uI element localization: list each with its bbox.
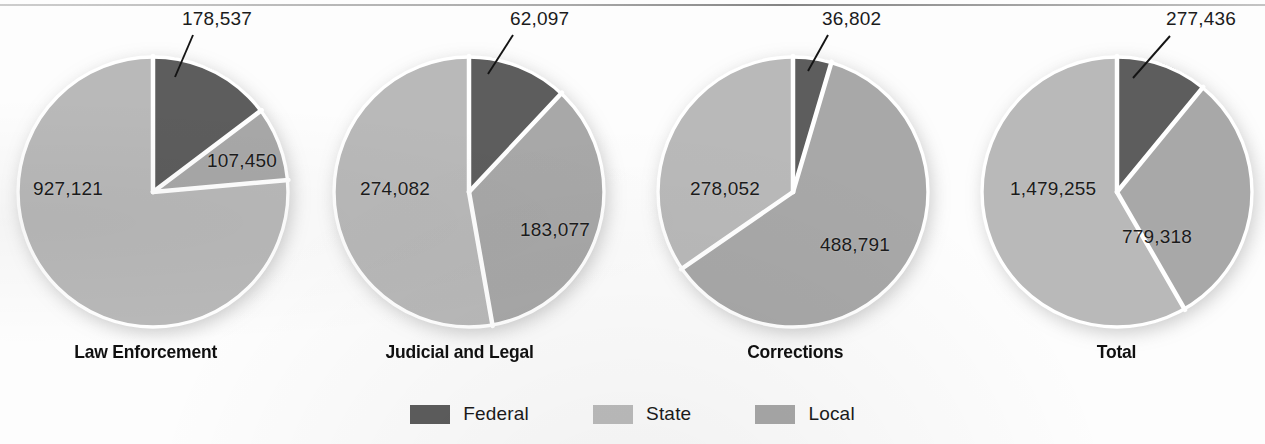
pie-caption-3: Corrections [747, 341, 843, 363]
legend-label: Federal [463, 403, 529, 425]
legend-label: Local [808, 403, 854, 425]
value-label-federal-1: 178,537 [182, 8, 252, 30]
value-label-federal-2: 62,097 [510, 8, 569, 30]
value-label-state-4: 1,479,255 [1010, 178, 1096, 200]
pie-caption-2: Judicial and Legal [385, 341, 533, 363]
value-label-state-1: 927,121 [33, 178, 103, 200]
value-label-local-1: 107,450 [207, 150, 277, 172]
pie-chart-figure: 178,537107,450927,121Law Enforcement62,0… [0, 0, 1265, 444]
pie-caption-1: Law Enforcement [74, 341, 217, 363]
legend-swatch-federal [410, 405, 450, 424]
legend-item-state[interactable]: State [593, 403, 691, 425]
value-label-federal-3: 36,802 [822, 8, 881, 30]
label-leader-line-4 [1129, 32, 1174, 82]
label-leader-line-3 [804, 31, 832, 75]
label-leader-line-2 [484, 31, 517, 78]
value-label-local-4: 779,318 [1122, 226, 1192, 248]
top-divider-rule [0, 4, 1265, 6]
legend-label: State [646, 403, 691, 425]
legend-swatch-local [755, 405, 795, 424]
label-leader-line-1 [171, 31, 197, 81]
value-label-state-2: 274,082 [360, 178, 430, 200]
value-label-state-3: 278,052 [690, 178, 760, 200]
legend-item-federal[interactable]: Federal [410, 403, 529, 425]
pie-caption-4: Total [1097, 341, 1137, 363]
legend-item-local[interactable]: Local [755, 403, 854, 425]
value-label-local-3: 488,791 [820, 234, 890, 256]
chart-legend: FederalStateLocal [0, 398, 1265, 430]
value-label-local-2: 183,077 [520, 219, 590, 241]
legend-swatch-state [593, 405, 633, 424]
value-label-federal-4: 277,436 [1166, 8, 1236, 30]
